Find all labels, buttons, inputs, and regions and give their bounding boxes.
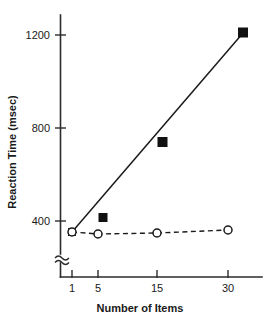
reaction-time-line-chart: 1200 800 400 1 5 15 30 Number of Items R… bbox=[0, 0, 265, 321]
data-point-square-5 bbox=[99, 214, 107, 222]
data-point-square-15 bbox=[158, 138, 167, 147]
data-point-circle-30 bbox=[224, 226, 232, 234]
data-point-circle-1 bbox=[68, 228, 76, 236]
x-tick-label-1: 1 bbox=[69, 282, 75, 294]
x-tick-label-5: 5 bbox=[95, 282, 101, 294]
y-axis-title: Reaction Time (msec) bbox=[6, 95, 18, 209]
y-tick-label-1200: 1200 bbox=[26, 29, 50, 41]
data-point-square-30 bbox=[239, 28, 248, 37]
y-tick-label-800: 800 bbox=[32, 122, 50, 134]
x-axis-title: Number of Items bbox=[97, 302, 184, 314]
data-point-circle-15 bbox=[153, 229, 161, 237]
data-point-circle-5 bbox=[94, 230, 102, 238]
chart-figure: 1200 800 400 1 5 15 30 Number of Items R… bbox=[0, 0, 265, 321]
x-tick-label-15: 15 bbox=[151, 282, 163, 294]
x-tick-label-30: 30 bbox=[222, 282, 234, 294]
y-tick-label-400: 400 bbox=[32, 215, 50, 227]
